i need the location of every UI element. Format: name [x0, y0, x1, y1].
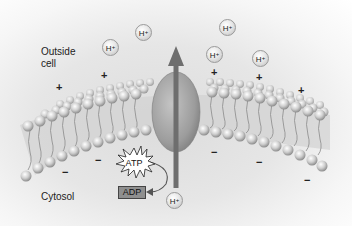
ion-symbol: H [223, 24, 229, 33]
ion-charge: + [112, 44, 116, 50]
hydrogen-ion-cytosol: H+ [166, 192, 183, 209]
positive-charge: + [56, 82, 62, 92]
positive-charge: + [298, 85, 304, 95]
ion-charge: + [145, 29, 149, 35]
atp-label: ATP [121, 158, 147, 168]
negative-charge: − [211, 147, 217, 157]
ion-symbol: H [210, 51, 216, 60]
ion-charge: + [176, 197, 180, 203]
hydrogen-ion: H+ [102, 39, 119, 56]
negative-charge: − [304, 175, 310, 185]
hydrogen-ion: H+ [219, 19, 236, 36]
ion-symbol: H [106, 44, 112, 53]
outside-cell-label: Outside cell [41, 46, 75, 70]
negative-charge: − [256, 157, 262, 167]
hydrogen-ion: H+ [252, 50, 269, 67]
adp-box: ADP [118, 186, 146, 199]
cytosol-label: Cytosol [41, 191, 74, 203]
ion-symbol: H [170, 197, 176, 206]
outside-label-line1: Outside [41, 46, 75, 58]
ion-symbol: H [139, 29, 145, 38]
negative-charge: − [95, 155, 101, 165]
hydrogen-ion: H+ [206, 46, 223, 63]
ion-charge: + [262, 55, 266, 61]
positive-charge: + [256, 72, 262, 82]
atp-to-adp-arrow [150, 162, 167, 192]
negative-charge: − [62, 167, 68, 177]
hydrogen-ion: H+ [135, 24, 152, 41]
outside-label-line2: cell [41, 58, 75, 70]
ion-charge: + [229, 24, 233, 30]
ion-charge: + [216, 51, 220, 57]
positive-charge: + [211, 67, 217, 77]
ion-symbol: H [256, 55, 262, 64]
diagram-canvas: Outside cell Cytosol H+ H+ H+ H+ H+ H+ +… [0, 0, 352, 226]
positive-charge: + [101, 70, 107, 80]
